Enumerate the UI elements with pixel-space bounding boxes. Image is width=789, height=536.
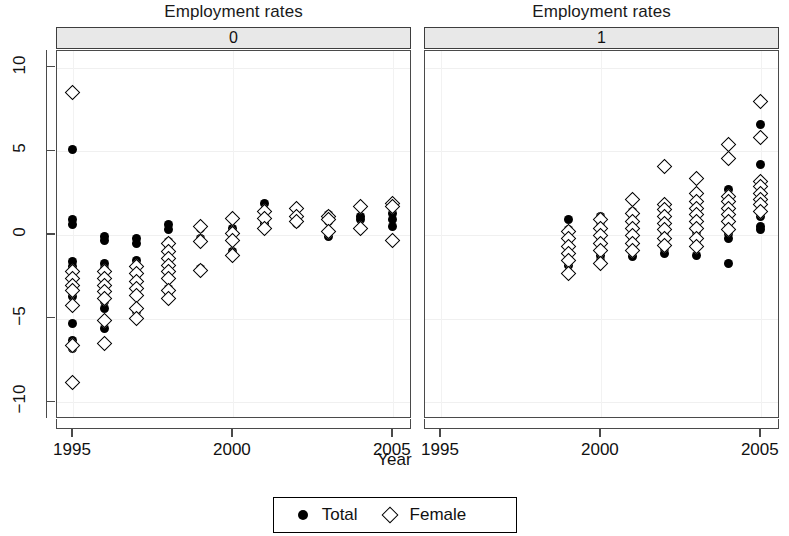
legend: Total Female: [273, 497, 517, 533]
data-point-total: [756, 120, 765, 129]
data-point-total: [724, 259, 733, 268]
filled-circle-icon: [298, 510, 308, 520]
gridline-x-0: [73, 51, 74, 417]
plot-panel-1: [424, 50, 779, 418]
data-point-total: [100, 236, 109, 245]
data-point-female: [753, 130, 769, 146]
x-tick-0-0: [71, 428, 72, 437]
data-point-female: [657, 159, 673, 175]
y-tick-label-2: 0: [10, 212, 30, 252]
data-point-total: [756, 160, 765, 169]
data-point-female: [65, 85, 81, 101]
data-point-female: [193, 219, 209, 235]
x-tick-0-1: [231, 428, 232, 437]
gridline-x-0: [441, 51, 442, 417]
trellis-scatter-figure: Employment rates Employment rates 0 1 19…: [0, 0, 789, 536]
data-point-female: [689, 170, 705, 186]
panel-strip-label-1: 1: [424, 27, 779, 49]
x-axis-title: Year: [0, 450, 789, 470]
data-point-total: [132, 239, 141, 248]
data-point-female: [353, 221, 369, 237]
open-diamond-icon: [381, 507, 398, 524]
data-point-female: [753, 93, 769, 109]
x-tick-1-2: [759, 428, 760, 437]
y-tick-label-4: 10: [10, 45, 30, 85]
legend-label-female: Female: [410, 505, 467, 525]
y-tick-1: [46, 317, 55, 318]
data-point-female: [193, 262, 209, 278]
panel-title-left: Employment rates: [56, 2, 411, 22]
y-tick-4: [46, 66, 55, 67]
data-point-female: [561, 266, 577, 282]
x-axis-corner-left-1: [424, 419, 425, 428]
data-point-total: [68, 145, 77, 154]
legend-entry-total: Total: [298, 505, 384, 525]
y-tick-label-1: −5: [10, 296, 30, 336]
data-point-total: [68, 319, 77, 328]
x-axis-line-1: [424, 428, 779, 429]
x-axis-corner-left-0: [56, 419, 57, 428]
data-point-female: [65, 297, 81, 313]
data-point-female: [225, 210, 241, 226]
data-point-total: [388, 222, 397, 231]
x-axis-corner-right-1: [778, 419, 779, 428]
data-point-female: [721, 150, 737, 166]
panel-strip-label-0: 0: [56, 27, 411, 49]
y-tick-3: [46, 150, 55, 151]
y-tick-label-0: −10: [10, 379, 30, 419]
data-point-total: [68, 220, 77, 229]
y-tick-label-3: 5: [10, 128, 30, 168]
data-point-female: [353, 199, 369, 215]
x-tick-1-1: [599, 428, 600, 437]
x-tick-1-0: [439, 428, 440, 437]
panel-title-right: Employment rates: [424, 2, 779, 22]
data-point-total: [164, 225, 173, 234]
x-tick-0-2: [391, 428, 392, 437]
data-point-total: [564, 215, 573, 224]
legend-label-total: Total: [322, 505, 358, 525]
legend-entry-female: Female: [384, 505, 493, 525]
data-point-total: [756, 225, 765, 234]
plot-panel-0: [56, 50, 411, 418]
data-point-female: [97, 336, 113, 352]
y-tick-2: [46, 233, 55, 234]
x-axis-line-0: [56, 428, 411, 429]
y-tick-0: [46, 401, 55, 402]
data-point-female: [65, 374, 81, 390]
x-axis-corner-right-0: [410, 419, 411, 428]
